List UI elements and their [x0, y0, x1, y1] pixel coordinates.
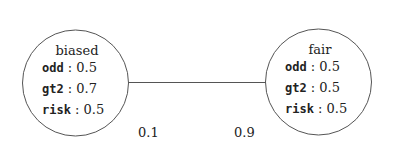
- edge-label-from: 0.1: [138, 125, 159, 140]
- node-prop-risk: risk : 0.5: [42, 101, 152, 119]
- edge-label-to: 0.9: [234, 125, 255, 140]
- node-title: fair: [285, 41, 355, 58]
- node-prop-gt2: gt2 : 0.7: [42, 80, 152, 98]
- node-fair: fair odd : 0.5 gt2 : 0.5 risk : 0.5: [285, 41, 394, 118]
- node-biased: biased odd : 0.5 gt2 : 0.7 risk : 0.5: [42, 42, 152, 119]
- node-title: biased: [42, 42, 112, 59]
- node-prop-risk: risk : 0.5: [285, 100, 394, 118]
- node-prop-odd: odd : 0.5: [285, 58, 394, 76]
- node-prop-odd: odd : 0.5: [42, 59, 152, 77]
- node-prop-gt2: gt2 : 0.5: [285, 79, 394, 97]
